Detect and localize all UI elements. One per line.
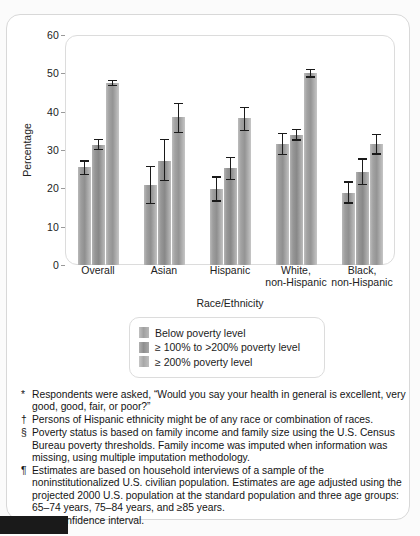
error-bar [112, 80, 114, 87]
bar[interactable] [304, 73, 317, 265]
x-axis-label: Overall [65, 265, 131, 291]
bar[interactable] [276, 144, 289, 265]
y-axis: Percentage 6050403020100 [17, 35, 65, 265]
footnote: **95% confidence interval. [21, 515, 413, 527]
bar[interactable] [106, 83, 119, 265]
bar-slot[interactable] [224, 35, 237, 265]
error-bar [98, 139, 100, 151]
legend-item[interactable]: ≥ 100% to >200% poverty level [139, 341, 315, 353]
bar-slot[interactable] [78, 35, 91, 265]
x-axis-label: Asian [131, 265, 197, 291]
bar-chart: Percentage 6050403020100 OverallAsianHis… [17, 31, 401, 311]
footnote-text: Estimates are based on household intervi… [32, 465, 413, 515]
legend-label: ≥ 100% to >200% poverty level [155, 341, 300, 353]
bar-group [131, 35, 197, 265]
bar-slot[interactable] [158, 35, 171, 265]
footnote: ¶Estimates are based on household interv… [21, 465, 413, 515]
legend-swatch [139, 327, 149, 338]
footnotes: *Respondents were asked, “Would you say … [21, 389, 413, 528]
bar[interactable] [92, 145, 105, 265]
plot-area [65, 35, 395, 265]
legend-label: ≥ 200% poverty level [155, 356, 252, 368]
bar-slot[interactable] [304, 35, 317, 265]
error-bar [282, 133, 284, 156]
x-axis-labels: OverallAsianHispanicWhite,non-HispanicBl… [65, 265, 395, 291]
footnote-marker: † [21, 414, 32, 426]
footnote: †Persons of Hispanic ethnicity might be … [21, 414, 413, 426]
figure-frame: Percentage 6050403020100 OverallAsianHis… [6, 14, 410, 520]
footnote: §Poverty status is based on family incom… [21, 427, 413, 464]
legend-swatch [139, 342, 149, 353]
error-bar [216, 176, 218, 201]
error-bar [84, 160, 86, 175]
y-tick-label: 30 [47, 144, 59, 156]
bar-group [65, 35, 131, 265]
error-bar [310, 69, 312, 78]
error-bar [348, 181, 350, 204]
bar-slot[interactable] [172, 35, 185, 265]
x-axis-label: Black,non-Hispanic [329, 265, 395, 291]
bar[interactable] [356, 172, 369, 265]
y-tick-label: 10 [47, 221, 59, 233]
bar-group [197, 35, 263, 265]
footnote-marker: § [21, 427, 32, 464]
footnote-marker: ¶ [21, 465, 32, 515]
y-tick-label: 20 [47, 182, 59, 194]
bar[interactable] [238, 118, 251, 265]
bar-slot[interactable] [106, 35, 119, 265]
bar-slot[interactable] [92, 35, 105, 265]
bar[interactable] [370, 144, 383, 265]
footnote-marker: * [21, 389, 32, 414]
footnote-text: Persons of Hispanic ethnicity might be o… [32, 414, 413, 426]
legend-swatch [139, 356, 149, 367]
y-axis-title: Percentage [21, 123, 33, 177]
bar-slot[interactable] [370, 35, 383, 265]
legend-label: Below poverty level [155, 327, 245, 339]
bar-group [329, 35, 395, 265]
bar-slot[interactable] [144, 35, 157, 265]
page-edge-artifact [0, 516, 68, 534]
x-axis-label: White,non-Hispanic [263, 265, 329, 291]
error-bar [150, 166, 152, 205]
bar-slot[interactable] [238, 35, 251, 265]
bar-group [263, 35, 329, 265]
error-bar [362, 158, 364, 185]
bar-slot[interactable] [356, 35, 369, 265]
y-tick-label: 40 [47, 106, 59, 118]
bar-slot[interactable] [342, 35, 355, 265]
chart-legend: Below poverty level≥ 100% to >200% pover… [129, 317, 325, 378]
y-tick-label: 60 [47, 29, 59, 41]
bar-slot[interactable] [210, 35, 223, 265]
footnote: *Respondents were asked, “Would you say … [21, 389, 413, 414]
legend-item[interactable]: ≥ 200% poverty level [139, 356, 315, 368]
error-bar [230, 157, 232, 181]
error-bar [296, 129, 298, 141]
error-bar [376, 134, 378, 155]
footnote-text: 95% confidence interval. [32, 515, 413, 527]
bar[interactable] [172, 117, 185, 265]
y-tick-label: 0 [53, 259, 59, 271]
bar-slot[interactable] [276, 35, 289, 265]
y-tick-label: 50 [47, 67, 59, 79]
legend-item[interactable]: Below poverty level [139, 327, 315, 339]
error-bar [164, 139, 166, 182]
error-bar [178, 103, 180, 133]
bar-slot[interactable] [290, 35, 303, 265]
bar[interactable] [224, 168, 237, 265]
error-bar [244, 107, 246, 132]
x-axis-title: Race/Ethnicity [65, 297, 395, 309]
x-axis-label: Hispanic [197, 265, 263, 291]
bar[interactable] [78, 167, 91, 265]
footnote-text: Respondents were asked, “Would you say y… [32, 389, 413, 414]
bar[interactable] [290, 135, 303, 265]
footnote-text: Poverty status is based on family income… [32, 427, 413, 464]
